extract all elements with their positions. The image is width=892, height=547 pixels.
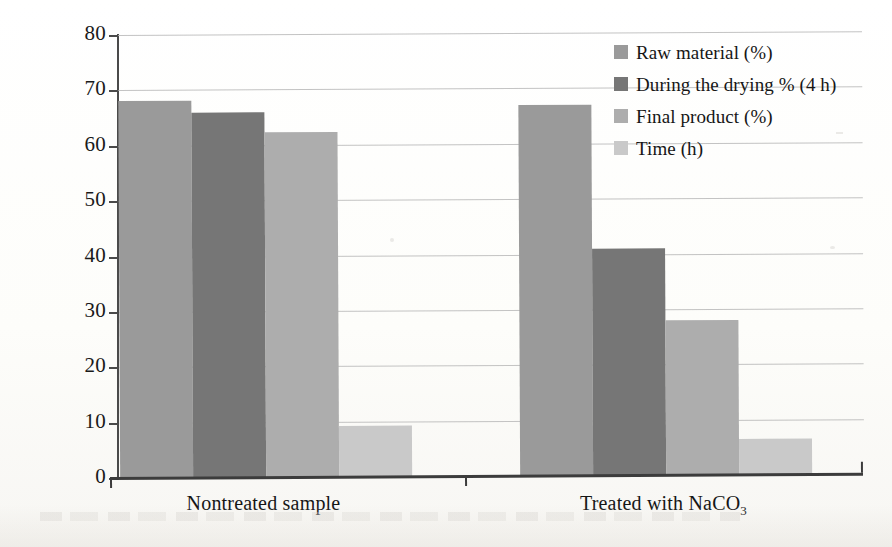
- bar: [518, 105, 593, 476]
- y-axis-tick-label: 40: [44, 243, 106, 268]
- legend-item: Raw material (%): [614, 38, 836, 66]
- y-axis-tick: [109, 201, 118, 203]
- bar: [264, 132, 339, 477]
- y-axis-tick: [109, 367, 118, 369]
- bar: [339, 425, 412, 477]
- legend-label: Raw material (%): [636, 43, 773, 62]
- y-axis-tick: [109, 423, 118, 425]
- y-axis-tick-label: 30: [44, 298, 106, 323]
- legend: Raw material (%)During the drying % (4 h…: [614, 38, 836, 166]
- y-axis-tick-label: 10: [44, 409, 106, 434]
- scan-speck-3: [830, 246, 835, 249]
- bar: [665, 320, 739, 475]
- bar: [191, 112, 266, 478]
- y-axis-tick: [109, 90, 118, 92]
- y-axis-tick-label: 0: [44, 464, 106, 489]
- legend-label: During the drying % (4 h): [636, 75, 836, 94]
- y-axis-tick-label: 50: [44, 187, 106, 212]
- x-axis-tick-middle: [465, 475, 467, 486]
- y-axis-tick: [109, 146, 118, 148]
- y-axis-tick-label: 80: [44, 21, 106, 46]
- legend-item: Final product (%): [614, 102, 836, 130]
- bar: [739, 439, 812, 475]
- legend-swatch-icon: [614, 141, 628, 155]
- scan-speck-2: [836, 132, 843, 134]
- legend-label: Final product (%): [636, 107, 773, 126]
- legend-swatch-icon: [614, 77, 628, 91]
- legend-item: Time (h): [614, 134, 836, 162]
- legend-label: Time (h): [636, 139, 703, 158]
- x-axis-tick-right: [861, 462, 863, 473]
- x-axis-tick-left: [110, 477, 112, 488]
- bar-group: [118, 34, 412, 478]
- bar-chart: 80706050403020100 Nontreated sample Trea…: [0, 0, 892, 547]
- y-axis-tick-label: 60: [44, 132, 106, 157]
- page-bleed-through: [40, 512, 740, 521]
- legend-swatch-icon: [614, 109, 628, 123]
- legend-item: During the drying % (4 h): [614, 70, 836, 98]
- y-axis-tick: [109, 35, 118, 37]
- bar: [118, 101, 193, 478]
- y-axis-tick-label: 70: [44, 76, 106, 101]
- y-axis-tick: [109, 257, 118, 259]
- y-axis-tick-label: 20: [44, 353, 106, 378]
- y-axis-tick: [109, 312, 118, 314]
- legend-swatch-icon: [614, 45, 628, 59]
- scan-speck: [390, 238, 394, 242]
- bar: [592, 248, 666, 475]
